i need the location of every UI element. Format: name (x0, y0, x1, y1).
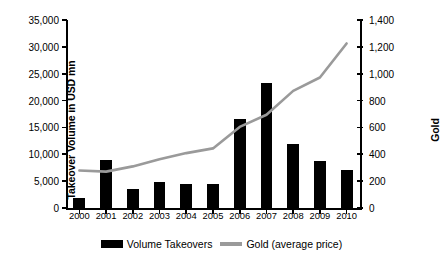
x-tick-label-2008: 2008 (283, 210, 304, 221)
y-tick-right (357, 127, 363, 129)
y-tick-label-left: 25,000 (28, 68, 59, 79)
bar-2009[interactable] (314, 161, 326, 208)
y-tick-label-right: 200 (369, 176, 386, 187)
x-tick-label-2004: 2004 (176, 210, 197, 221)
y-tick-label-left: 15,000 (28, 122, 59, 133)
y-tick-label-right: 0 (369, 203, 375, 214)
x-tick-label-2007: 2007 (256, 210, 277, 221)
x-tick-label-2001: 2001 (96, 210, 117, 221)
y-tick-label-right: 600 (369, 122, 386, 133)
y-tick-label-right: 1,000 (369, 68, 394, 79)
y-tick-right (357, 207, 363, 209)
y-tick-label-right: 800 (369, 95, 386, 106)
bar-2004[interactable] (180, 184, 192, 208)
bar-2002[interactable] (127, 189, 139, 208)
x-tick-label-2006: 2006 (229, 210, 250, 221)
y-tick-right (357, 153, 363, 155)
y-tick-label-left: 30,000 (28, 41, 59, 52)
bar-swatch-icon (101, 240, 123, 248)
bar-2003[interactable] (154, 182, 166, 208)
y-tick-label-left: 10,000 (28, 149, 59, 160)
legend-item-volume-takeovers: Volume Takeovers (101, 238, 213, 250)
y-tick-right (357, 46, 363, 48)
y-tick-left (62, 73, 67, 75)
y-tick-left (62, 127, 67, 129)
bar-2010[interactable] (341, 170, 353, 208)
y-tick-label-right: 400 (369, 149, 386, 160)
y-tick-left (62, 153, 67, 155)
y-tick-left (62, 46, 67, 48)
y-tick-label-left: 0 (53, 203, 59, 214)
legend-label-volume-takeovers: Volume Takeovers (127, 238, 213, 250)
bar-2006[interactable] (234, 119, 246, 208)
line-swatch-icon (220, 242, 242, 246)
y-tick-label-left: 5,000 (34, 176, 59, 187)
y-tick-right (357, 180, 363, 182)
y-tick-right (357, 19, 363, 21)
legend-label-gold: Gold (average price) (246, 238, 342, 250)
legend-item-gold: Gold (average price) (220, 238, 342, 250)
x-tick-label-2010: 2010 (336, 210, 357, 221)
bar-2001[interactable] (100, 160, 112, 208)
x-tick-label-2009: 2009 (309, 210, 330, 221)
y-tick-left (62, 207, 67, 209)
bar-2000[interactable] (73, 198, 85, 208)
y-tick-label-left: 35,000 (28, 15, 59, 26)
y-tick-label-left: 20,000 (28, 95, 59, 106)
y-tick-left (62, 100, 67, 102)
chart-container: Takeover Volume in USD mn Gold 05,00010,… (0, 0, 443, 260)
y-tick-right (357, 100, 363, 102)
x-tick-label-2005: 2005 (203, 210, 224, 221)
x-tick-label-2002: 2002 (122, 210, 143, 221)
y-tick-left (62, 19, 67, 21)
y-tick-label-right: 1,200 (369, 41, 394, 52)
y-axis-title-right: Gold (429, 118, 441, 142)
x-tick-label-2000: 2000 (69, 210, 90, 221)
y-tick-left (62, 180, 67, 182)
bar-2007[interactable] (261, 83, 273, 208)
x-tick-label-2003: 2003 (149, 210, 170, 221)
y-tick-label-right: 1,400 (369, 15, 394, 26)
bar-2005[interactable] (207, 184, 219, 208)
chart-legend: Volume Takeovers Gold (average price) (0, 238, 443, 250)
bar-2008[interactable] (287, 144, 299, 208)
y-tick-right (357, 73, 363, 75)
